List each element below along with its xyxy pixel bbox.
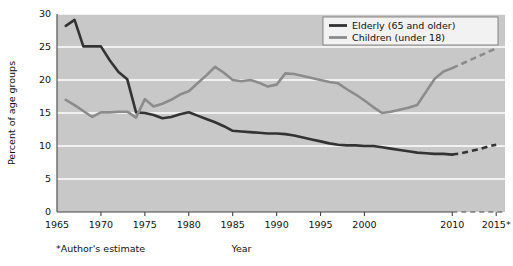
- y-tick-label: 25: [39, 41, 51, 52]
- chart-legend: Elderly (65 and older)Children (under 18…: [323, 17, 498, 45]
- x-tick-label: 1975: [133, 219, 157, 230]
- legend-label: Elderly (65 and older): [352, 20, 455, 31]
- y-tick-label: 0: [45, 206, 51, 217]
- x-tick-label: 2010: [440, 219, 464, 230]
- y-tick-label: 5: [45, 173, 51, 184]
- y-tick-label: 30: [39, 8, 51, 19]
- x-tick-label: 2000: [352, 219, 376, 230]
- y-axis-title: Percent of age groups: [6, 61, 17, 165]
- x-tick-label: 1985: [221, 219, 245, 230]
- y-tick-label: 10: [39, 140, 51, 151]
- x-tick-label: 1980: [177, 219, 201, 230]
- x-tick-label: 1965: [45, 219, 69, 230]
- x-tick-label: 1990: [265, 219, 289, 230]
- x-tick-label: 1970: [89, 219, 113, 230]
- footnote-authors-estimate: *Author's estimate: [56, 243, 145, 254]
- x-tick-label: 2015*: [482, 219, 511, 230]
- line-chart: 0510152025301965197019751980198519901995…: [0, 0, 513, 266]
- legend-label: Children (under 18): [352, 32, 445, 43]
- y-tick-label: 15: [39, 107, 51, 118]
- x-tick-label: 1995: [308, 219, 332, 230]
- chart-figure: 0510152025301965197019751980198519901995…: [0, 0, 513, 266]
- y-tick-label: 20: [39, 74, 51, 85]
- x-axis-title: Year: [230, 243, 251, 254]
